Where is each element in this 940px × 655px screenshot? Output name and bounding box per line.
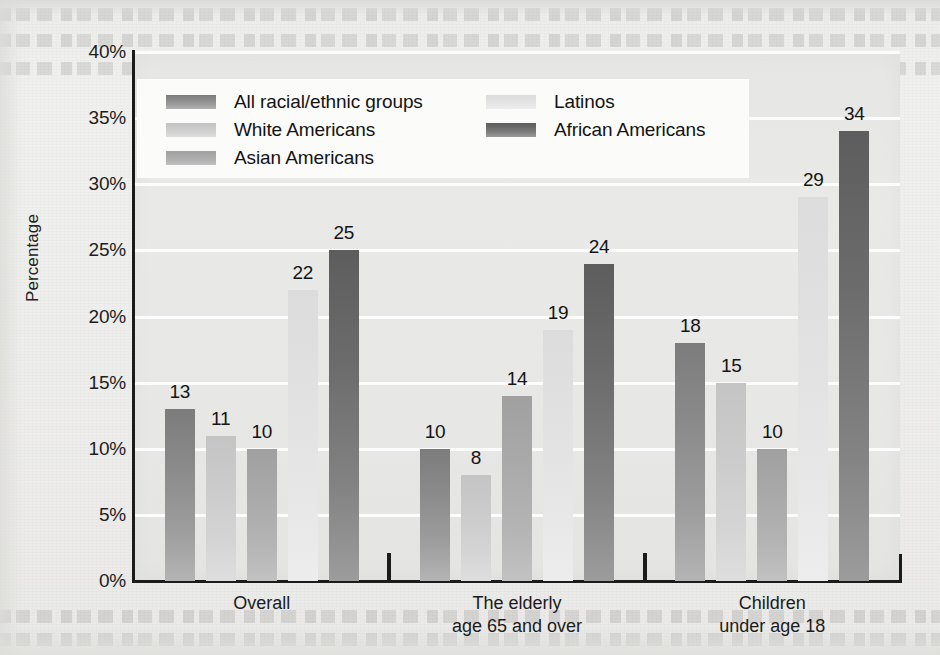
chart-legend: All racial/ethnic groupsWhite AmericansA… [138, 80, 748, 177]
bar-value-label: 29 [803, 169, 824, 191]
legend-item: Asian Americans [166, 145, 423, 171]
bar-value-label: 22 [292, 262, 313, 284]
y-axis-title: Percentage [23, 178, 43, 338]
bar: 29 [798, 197, 828, 581]
bar-value-label: 13 [169, 381, 190, 403]
legend-item: All racial/ethnic groups [166, 89, 423, 115]
bar-value-label: 11 [211, 408, 230, 430]
y-axis-tick-label: 10% [62, 438, 126, 460]
legend-column-right: LatinosAfrican Americans [486, 89, 705, 145]
bar-value-label: 10 [425, 421, 446, 443]
y-axis-tick-label: 30% [62, 173, 126, 195]
bar-value-label: 8 [471, 447, 481, 469]
gridline [134, 51, 900, 54]
legend-label: Latinos [554, 91, 615, 113]
bar-fill [247, 449, 277, 581]
bar-fill [329, 250, 359, 581]
bar-fill [798, 197, 828, 581]
x-axis-category-label: Children under age 18 [645, 592, 900, 638]
bar: 11 [206, 436, 236, 581]
y-axis-tick-label: 20% [62, 306, 126, 328]
legend-column-left: All racial/ethnic groupsWhite AmericansA… [166, 89, 423, 173]
legend-swatch [486, 95, 536, 109]
bar-fill [502, 396, 532, 581]
bar: 25 [329, 250, 359, 581]
y-axis-tick-label: 25% [62, 239, 126, 261]
legend-swatch [166, 95, 216, 109]
bar: 24 [584, 264, 614, 581]
legend-swatch [166, 151, 216, 165]
bar-value-label: 18 [680, 315, 701, 337]
bar-fill [675, 343, 705, 581]
bar: 34 [839, 131, 869, 581]
bar-fill [288, 290, 318, 581]
bar-value-label: 15 [721, 355, 742, 377]
bar-fill [206, 436, 236, 581]
bar-value-label: 24 [589, 236, 610, 258]
y-axis-tick-label: 15% [62, 372, 126, 394]
bar-chart: Percentage 0%5%10%15%20%25%30%35%40% 131… [0, 0, 940, 655]
bar: 10 [420, 449, 450, 581]
bar-value-label: 14 [507, 368, 528, 390]
x-axis-category-label: Overall [134, 592, 389, 615]
bar: 10 [247, 449, 277, 581]
y-axis-tick-label: 5% [62, 504, 126, 526]
bar-fill [839, 131, 869, 581]
legend-label: Asian Americans [234, 147, 374, 169]
bar-fill [757, 449, 787, 581]
group-separator-tick [387, 553, 391, 583]
legend-label: African Americans [554, 119, 705, 141]
bar-value-label: 10 [762, 421, 783, 443]
y-axis-tick-label: 0% [62, 570, 126, 592]
x-axis-category-label: The elderly age 65 and over [389, 592, 644, 638]
bar: 8 [461, 475, 491, 581]
bar-value-label: 10 [251, 421, 272, 443]
bar: 15 [716, 383, 746, 581]
gridline [134, 316, 900, 319]
bar-fill [543, 330, 573, 581]
group-separator-tick [643, 553, 647, 583]
legend-label: All racial/ethnic groups [234, 91, 423, 113]
gridline [134, 183, 900, 186]
bar-fill [461, 475, 491, 581]
bar: 10 [757, 449, 787, 581]
legend-item: White Americans [166, 117, 423, 143]
y-axis-tick-label: 40% [62, 41, 126, 63]
x-axis-right-tick [899, 554, 902, 583]
bar: 13 [165, 409, 195, 581]
bar-value-label: 25 [333, 222, 354, 244]
bar-fill [165, 409, 195, 581]
bar: 14 [502, 396, 532, 581]
bar-fill [420, 449, 450, 581]
bar: 19 [543, 330, 573, 581]
bar-value-label: 19 [548, 302, 569, 324]
bar: 22 [288, 290, 318, 581]
legend-swatch [486, 123, 536, 137]
bar: 18 [675, 343, 705, 581]
y-axis-tick-labels: 0%5%10%15%20%25%30%35%40% [58, 0, 126, 655]
gridline [134, 249, 900, 252]
bar-fill [716, 383, 746, 581]
y-axis-line [132, 50, 135, 583]
legend-item: African Americans [486, 117, 705, 143]
bar-fill [584, 264, 614, 581]
y-axis-tick-label: 35% [62, 107, 126, 129]
legend-item: Latinos [486, 89, 705, 115]
legend-swatch [166, 123, 216, 137]
scanned-page: Percentage 0%5%10%15%20%25%30%35%40% 131… [0, 0, 940, 655]
legend-label: White Americans [234, 119, 375, 141]
bar-value-label: 34 [844, 103, 865, 125]
